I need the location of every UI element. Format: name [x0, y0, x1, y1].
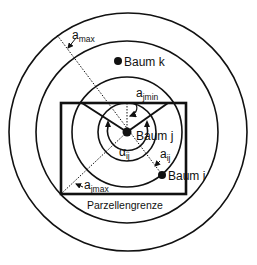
a-jmin-label: ajmin [136, 86, 159, 102]
alpha-ij-label: αij [119, 145, 130, 161]
competition-zone-diagram: Baum k Baum j Baum i amax ajmin αij aij … [0, 0, 257, 265]
baum-k-dot [114, 57, 122, 65]
baum-j-label: Baum j [136, 129, 173, 143]
alpha-arrow-right [144, 120, 150, 127]
a-ij-label: aij [160, 147, 171, 163]
a-max-label: amax [72, 28, 95, 44]
a-ij-arrow [155, 161, 160, 166]
baum-j-dot [123, 128, 132, 137]
baum-i-label: Baum i [168, 169, 205, 183]
a-jmin-arrow [130, 103, 137, 116]
plot-boundary-label: Parzellengrenze [87, 199, 163, 211]
a-jmax-label: ajmax [84, 178, 109, 194]
baum-k-label: Baum k [124, 55, 166, 69]
a-jmax-arrow [76, 184, 83, 187]
v-line-left [82, 103, 127, 132]
baum-i-dot [158, 171, 166, 179]
